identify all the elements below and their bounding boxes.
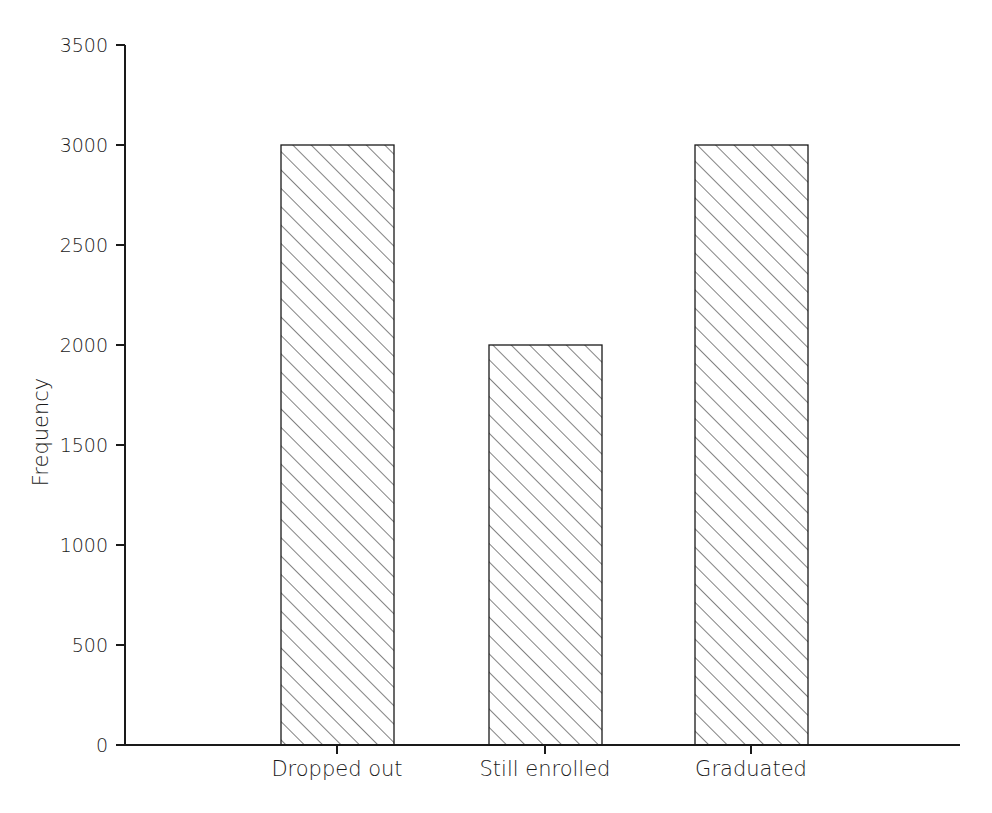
x-tick-label-still-enrolled: Still enrolled — [480, 757, 611, 781]
bar-graduated[interactable] — [695, 145, 808, 745]
y-tick-label-3500: 3500 — [60, 34, 108, 56]
y-tick-label-500: 500 — [72, 634, 108, 656]
y-tick-label-1500: 1500 — [60, 434, 108, 456]
bar-still-enrolled[interactable] — [489, 345, 602, 745]
y-tick-label-2500: 2500 — [60, 234, 108, 256]
y-tick-label-3000: 3000 — [60, 134, 108, 156]
bar-dropped-out[interactable] — [281, 145, 394, 745]
x-axis-tick-labels: Dropped out Still enrolled Graduated — [271, 757, 806, 781]
y-axis-title: Frequency — [29, 378, 53, 487]
x-tick-label-graduated: Graduated — [695, 757, 807, 781]
x-tick-label-dropped-out: Dropped out — [271, 757, 402, 781]
y-tick-label-0: 0 — [96, 734, 108, 756]
y-tick-label-2000: 2000 — [60, 334, 108, 356]
chart-canvas: 3500 3000 2500 2000 1500 1000 500 0 Freq… — [0, 0, 992, 813]
y-tick-label-1000: 1000 — [60, 534, 108, 556]
bar-chart-figure: 3500 3000 2500 2000 1500 1000 500 0 Freq… — [0, 0, 992, 813]
